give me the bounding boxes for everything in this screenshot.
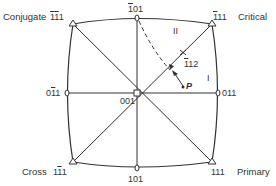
pole-label-112: 112 — [184, 59, 198, 69]
index-digit: 1 — [138, 174, 143, 184]
diad-top — [135, 15, 139, 21]
pole-label-top-left: 111 — [50, 12, 64, 22]
boundary-top — [73, 19, 212, 25]
index-digit: 1 — [55, 88, 60, 98]
p-arrow-line — [175, 74, 183, 86]
dashed-trace — [139, 21, 170, 70]
p-arrow-head — [172, 70, 178, 76]
point-p-label: P — [186, 81, 192, 91]
slip-conjugate: Conjugate — [3, 12, 46, 22]
pole-label-top: 101 — [128, 4, 143, 14]
region-two: II — [173, 26, 178, 36]
diad-bottom — [135, 165, 139, 171]
index-digit: 1 — [222, 12, 227, 22]
index-digit: 1 — [138, 4, 143, 14]
pole-label-right: 011 — [222, 88, 236, 98]
index-digit: 1 — [62, 167, 67, 177]
region-one: I — [207, 73, 210, 83]
pole-label-bottom-right: 111 — [211, 167, 225, 177]
diad-left — [65, 90, 69, 96]
pole-label-left: 011 — [46, 88, 60, 98]
index-digit: 1 — [59, 12, 64, 22]
diad-right — [216, 90, 220, 96]
pole-label-center: 001 — [120, 96, 135, 106]
slip-primary: Primary — [237, 167, 270, 177]
boundary-bottom — [73, 162, 212, 167]
pole-label-bottom-left: 111 — [53, 167, 67, 177]
index-digit: 1 — [231, 88, 236, 98]
pole-label-top-right: 111 — [213, 12, 227, 22]
slip-cross: Cross — [22, 167, 47, 177]
pole-label-bottom: 101 — [128, 174, 143, 184]
index-digit: 1 — [220, 167, 225, 177]
index-digit: 1 — [130, 96, 135, 106]
point-p — [182, 86, 185, 89]
slip-critical: Critical — [238, 12, 267, 22]
index-digit: 2 — [193, 59, 198, 69]
